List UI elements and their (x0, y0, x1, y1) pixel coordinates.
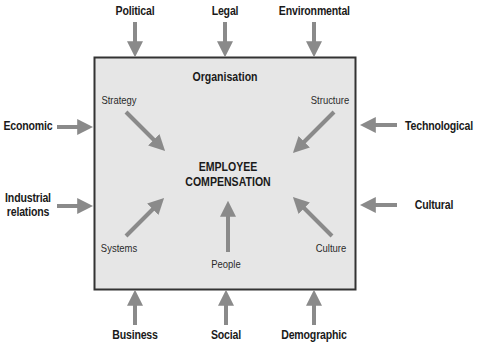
label-strategy: Strategy (97, 94, 142, 106)
label-cultural: Cultural (408, 198, 461, 212)
employee-compensation-label: EMPLOYEE COMPENSATION (175, 160, 281, 190)
label-culture: Culture (309, 242, 354, 254)
label-environmental: Environmental (279, 4, 349, 18)
label-systems: Systems (97, 242, 142, 254)
label-industrial-relations: Industrial relations (3, 191, 52, 219)
label-economic: Economic (3, 119, 52, 133)
label-demographic: Demographic (279, 328, 349, 342)
label-social: Social (200, 328, 253, 342)
center-line2: COMPENSATION (175, 175, 281, 190)
label-structure: Structure (305, 94, 355, 106)
label-industrial-line2: relations (3, 205, 52, 219)
label-political: Political (113, 4, 157, 18)
label-legal: Legal (203, 4, 247, 18)
label-people: People (204, 258, 249, 270)
organisation-title: Organisation (190, 70, 260, 84)
center-line1: EMPLOYEE (175, 160, 281, 175)
label-industrial-line1: Industrial (3, 191, 52, 205)
label-technological: Technological (405, 119, 474, 133)
label-business: Business (109, 328, 162, 342)
